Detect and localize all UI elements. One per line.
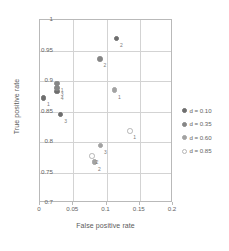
y-tick-label: 1 [25, 16, 53, 22]
data-point-marker [54, 85, 60, 91]
scatter-chart: 123412312312 0.70.750.80.850.90.951 00.0… [0, 0, 229, 251]
legend-item[interactable]: d = 0.60 [182, 131, 229, 145]
data-point-label: 2 [103, 63, 106, 68]
legend-item[interactable]: d = 0.85 [182, 145, 229, 159]
x-tick-mark [72, 202, 73, 205]
data-point-label: 3 [61, 92, 64, 97]
x-tick-mark [106, 202, 107, 205]
data-point-marker [98, 143, 104, 149]
legend: d = 0.10d = 0.35d = 0.60d = 0.85 [182, 104, 229, 158]
y-tick-label: 0.8 [25, 138, 53, 144]
data-point-label: 3 [104, 150, 107, 155]
data-point-label: 2 [120, 42, 123, 47]
legend-swatch-icon [182, 122, 187, 127]
x-tick-label: 0 [25, 206, 53, 212]
x-tick-mark [172, 202, 173, 205]
gridline-vertical [140, 20, 141, 201]
legend-label: d = 0.60 [189, 135, 211, 141]
gridline-horizontal [40, 51, 171, 52]
y-tick-label: 0.95 [25, 47, 53, 53]
legend-swatch-icon [182, 135, 187, 140]
data-point-marker [41, 95, 47, 101]
y-tick-label: 0.75 [25, 169, 53, 175]
data-point-label: 2 [95, 160, 98, 165]
data-point-label: 1 [133, 135, 136, 140]
x-tick-label: 0.15 [125, 206, 153, 212]
data-point-marker [97, 56, 103, 62]
gridline-horizontal [40, 173, 171, 174]
data-point-label: 1 [118, 94, 121, 99]
data-point-marker [114, 36, 120, 42]
data-point-marker [127, 128, 133, 134]
data-point-label: 2 [98, 166, 101, 171]
legend-item[interactable]: d = 0.35 [182, 118, 229, 132]
gridline-horizontal [40, 142, 171, 143]
legend-swatch-icon [182, 149, 187, 154]
data-point-marker [112, 87, 118, 93]
gridline-vertical [73, 20, 74, 201]
x-axis-title: False positive rate [39, 222, 172, 229]
data-point-label: 3 [64, 119, 67, 124]
legend-item[interactable]: d = 0.10 [182, 104, 229, 118]
x-tick-label: 0.05 [58, 206, 86, 212]
legend-swatch-icon [182, 108, 187, 113]
x-tick-label: 0.1 [92, 206, 120, 212]
plot-area: 123412312312 [39, 19, 172, 202]
x-tick-mark [39, 202, 40, 205]
y-tick-label: 0.85 [25, 108, 53, 114]
x-tick-label: 0.2 [158, 206, 186, 212]
data-point-marker [89, 153, 95, 159]
gridline-vertical [107, 20, 108, 201]
legend-label: d = 0.35 [189, 121, 211, 127]
data-point-marker [58, 112, 64, 118]
legend-label: d = 0.85 [189, 148, 211, 154]
y-tick-label: 0.9 [25, 77, 53, 83]
x-tick-mark [139, 202, 140, 205]
legend-label: d = 0.10 [189, 108, 211, 114]
y-axis-title: True positive rate [13, 42, 20, 172]
